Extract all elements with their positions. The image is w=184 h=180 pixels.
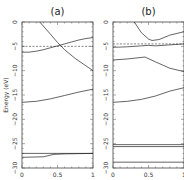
band-line xyxy=(22,153,93,157)
band-line xyxy=(113,44,184,47)
panel-title: (a) xyxy=(51,6,65,17)
y-tick-label: −25 xyxy=(102,137,109,150)
panel-title: (b) xyxy=(141,6,155,17)
y-tick-label: −30 xyxy=(102,161,109,174)
panel-a: (a)0−5−10−15−20−25−3000.51Energy (eV) xyxy=(2,6,95,178)
band-structure-figure: (a)0−5−10−15−20−25−3000.51Energy (eV)(b)… xyxy=(0,0,184,180)
y-tick-label: −10 xyxy=(11,64,18,77)
plot-frame xyxy=(22,22,93,168)
y-tick-label: 0 xyxy=(102,20,109,24)
x-tick-label: 0.5 xyxy=(53,171,63,178)
x-tick-label: 0.5 xyxy=(144,171,154,178)
band-line xyxy=(134,22,184,40)
band-line xyxy=(113,57,184,72)
y-tick-label: −20 xyxy=(102,113,109,126)
band-line xyxy=(22,89,93,102)
y-tick-label: −15 xyxy=(102,88,109,101)
y-tick-label: −5 xyxy=(102,42,109,51)
y-tick-label: −30 xyxy=(11,161,18,174)
x-tick-label: 0 xyxy=(20,171,24,178)
band-line xyxy=(113,88,184,103)
x-tick-label: 1 xyxy=(182,171,184,178)
y-tick-label: −20 xyxy=(11,113,18,126)
x-tick-label: 1 xyxy=(91,171,95,178)
y-axis-label: Energy (eV) xyxy=(2,77,10,112)
band-line xyxy=(22,38,93,53)
y-tick-label: −15 xyxy=(11,88,18,101)
y-tick-label: −25 xyxy=(11,137,18,150)
y-tick-label: −5 xyxy=(11,42,18,51)
y-tick-label: 0 xyxy=(11,20,18,24)
x-tick-label: 0 xyxy=(111,171,115,178)
panel-b: (b)0−5−10−15−20−25−3000.51 xyxy=(102,6,184,178)
y-tick-label: −10 xyxy=(102,64,109,77)
